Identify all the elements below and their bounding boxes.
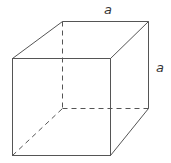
cube-diagram: a a [0, 0, 171, 163]
label-top-edge: a [104, 2, 112, 17]
hidden-edge-bottom-left-depth [13, 109, 63, 156]
front-face [13, 59, 111, 156]
label-right-edge: a [156, 60, 164, 75]
edge-top-left-depth [13, 22, 63, 59]
edge-top-right-depth [111, 22, 149, 59]
edge-bottom-right-depth [111, 109, 149, 156]
